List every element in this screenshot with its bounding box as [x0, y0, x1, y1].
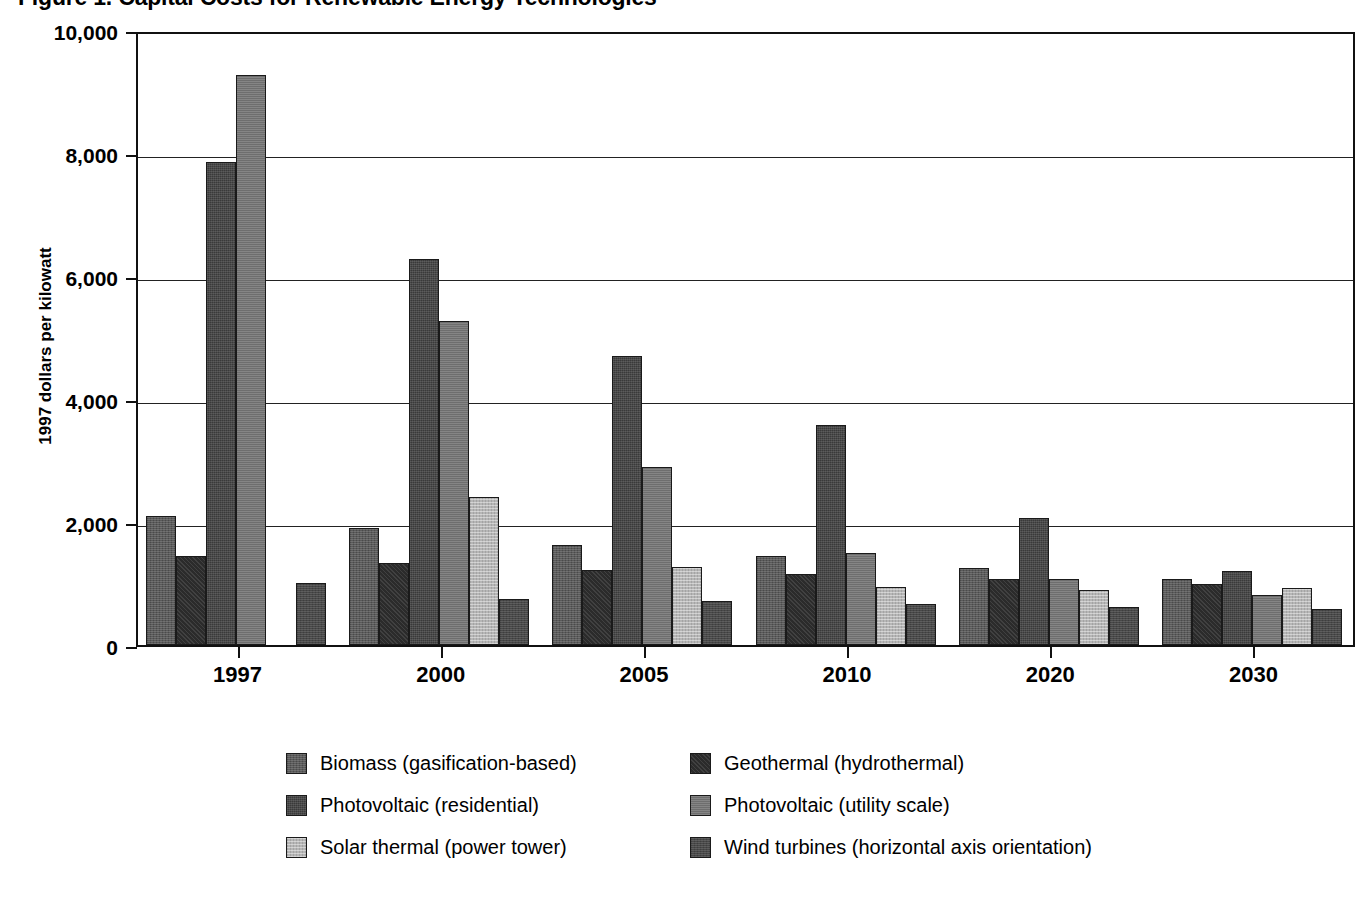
bar	[1162, 579, 1192, 645]
y-axis-tick-label: 4,000	[2, 391, 118, 412]
y-axis-tick-label: 10,000	[2, 22, 118, 43]
bar	[959, 568, 989, 645]
legend-swatch-pv-res	[286, 795, 307, 816]
bar	[1019, 518, 1049, 645]
bar	[1252, 595, 1282, 645]
legend-swatch-biomass	[286, 753, 307, 774]
y-axis-tick-mark	[126, 647, 137, 649]
bar	[846, 553, 876, 645]
bar	[582, 570, 612, 645]
x-axis-tick-mark	[644, 647, 646, 658]
legend-item: Photovoltaic (residential)	[286, 794, 690, 817]
legend-label: Biomass (gasification-based)	[320, 752, 577, 775]
y-axis-tick-mark	[126, 278, 137, 280]
plot-box	[136, 32, 1355, 647]
x-axis-tick-mark	[1050, 647, 1052, 658]
y-axis-tick-label: 0	[2, 637, 118, 658]
x-axis-tick-mark	[847, 647, 849, 658]
gridline	[138, 157, 1353, 158]
y-axis-tick-mark	[126, 155, 137, 157]
bar	[206, 162, 236, 645]
bar	[1222, 571, 1252, 645]
bar	[1079, 590, 1109, 645]
bar	[816, 425, 846, 645]
y-axis-tick-label: 6,000	[2, 268, 118, 289]
chart-area: 1997 dollars per kilowatt 10,0008,0006,0…	[0, 0, 1366, 720]
x-axis-tick-label: 1997	[158, 662, 318, 688]
legend: Biomass (gasification-based)Geothermal (…	[286, 742, 1086, 868]
bar	[236, 75, 266, 645]
bar	[1049, 579, 1079, 645]
bar	[702, 601, 732, 645]
legend-item: Geothermal (hydrothermal)	[690, 752, 1090, 775]
bar	[296, 583, 326, 645]
bar	[552, 545, 582, 645]
x-axis-tick-label: 2000	[361, 662, 521, 688]
legend-label: Photovoltaic (utility scale)	[724, 794, 950, 817]
x-axis-tick-label: 2030	[1173, 662, 1333, 688]
x-axis-tick-mark	[441, 647, 443, 658]
y-axis-tick-mark	[126, 32, 137, 34]
bar	[876, 587, 906, 645]
bar	[146, 516, 176, 645]
bar	[379, 563, 409, 645]
bar	[989, 579, 1019, 645]
y-axis-tick-mark	[126, 524, 137, 526]
x-axis-tick-label: 2020	[970, 662, 1130, 688]
y-axis-title: 1997 dollars per kilowatt	[36, 196, 56, 496]
legend-label: Wind turbines (horizontal axis orientati…	[724, 836, 1092, 859]
legend-item: Solar thermal (power tower)	[286, 836, 690, 859]
x-axis-tick-label: 2010	[767, 662, 927, 688]
y-axis-tick-label: 8,000	[2, 145, 118, 166]
bar	[642, 467, 672, 645]
bar	[672, 567, 702, 645]
legend-item: Biomass (gasification-based)	[286, 752, 690, 775]
legend-swatch-pv-util	[690, 795, 711, 816]
bar	[439, 321, 469, 645]
legend-item: Wind turbines (horizontal axis orientati…	[690, 836, 1090, 859]
legend-swatch-geothermal	[690, 753, 711, 774]
legend-label: Solar thermal (power tower)	[320, 836, 567, 859]
bar	[1192, 584, 1222, 645]
y-axis-tick-label: 2,000	[2, 514, 118, 535]
bar	[756, 556, 786, 645]
x-axis-tick-mark	[1253, 647, 1255, 658]
legend-swatch-solar-thermal	[286, 837, 307, 858]
legend-label: Photovoltaic (residential)	[320, 794, 539, 817]
legend-item: Photovoltaic (utility scale)	[690, 794, 1090, 817]
bar	[612, 356, 642, 645]
bar	[409, 259, 439, 645]
gridline	[138, 403, 1353, 404]
bar	[349, 528, 379, 645]
bar	[469, 497, 499, 645]
legend-label: Geothermal (hydrothermal)	[724, 752, 964, 775]
bar	[1109, 607, 1139, 645]
gridline	[138, 280, 1353, 281]
x-axis-tick-label: 2005	[564, 662, 724, 688]
bar	[1282, 588, 1312, 645]
legend-swatch-wind	[690, 837, 711, 858]
bar	[499, 599, 529, 645]
gridline	[138, 526, 1353, 527]
bar	[1312, 609, 1342, 645]
bar	[176, 556, 206, 645]
y-axis-tick-mark	[126, 401, 137, 403]
x-axis-tick-mark	[238, 647, 240, 658]
bar	[786, 574, 816, 645]
bar	[906, 604, 936, 645]
